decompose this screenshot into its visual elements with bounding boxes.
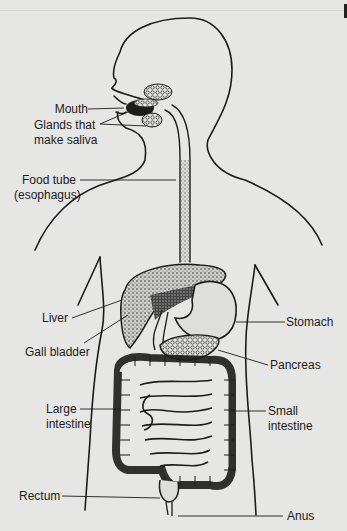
rectum: [159, 480, 178, 502]
label-salivary-glands-line1: Glands that: [34, 118, 95, 133]
torso-left: [85, 257, 104, 510]
label-small-intestine-line2: intestine: [268, 419, 313, 434]
label-salivary-glands-line2: make saliva: [34, 133, 97, 148]
label-anus: Anus: [287, 509, 314, 524]
label-stomach: Stomach: [286, 315, 333, 330]
small-intestine: [140, 380, 212, 466]
large-intestine: [116, 357, 232, 486]
esophagus: [165, 110, 180, 262]
label-small-intestine-line1: Small: [268, 404, 298, 419]
label-large-intestine-line1: Large: [46, 402, 77, 417]
label-rectum: Rectum: [19, 489, 60, 504]
label-mouth: Mouth: [40, 102, 88, 117]
digestive-system-illustration: [0, 0, 347, 531]
head-outline: [112, 18, 322, 245]
torso-right: [246, 265, 256, 515]
label-pancreas: Pancreas: [270, 358, 321, 373]
label-esophagus-line2: (esophagus): [14, 188, 81, 203]
salivary-glands: [126, 84, 172, 127]
label-esophagus-line1: Food tube: [22, 173, 76, 188]
label-large-intestine-line2: intestine: [46, 417, 91, 432]
label-gall-bladder: Gall bladder: [25, 345, 90, 360]
label-liver: Liver: [42, 311, 68, 326]
